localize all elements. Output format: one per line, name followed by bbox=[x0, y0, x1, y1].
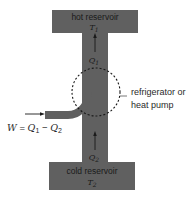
hot-reservoir-label: hot reservoir bbox=[71, 12, 118, 22]
cold-reservoir-label: cold reservoir bbox=[66, 166, 117, 176]
refrigerator-heat-pump-diagram: hot reservoir T1 cold reservoir T2 Q1 Q2… bbox=[0, 0, 195, 198]
device-label-line2: heat pump bbox=[131, 100, 174, 110]
work-equation: W = Q1 − Q2 bbox=[7, 122, 62, 134]
device-label-line1: refrigerator or bbox=[131, 87, 186, 97]
work-input-arrow bbox=[25, 112, 45, 116]
